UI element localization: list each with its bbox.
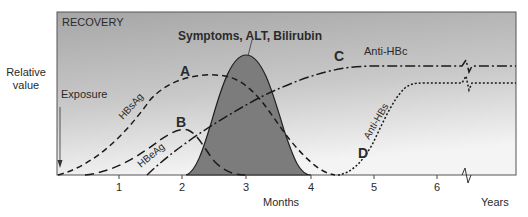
- x-tick-6: 6: [434, 181, 440, 193]
- point-label-d: D: [358, 145, 368, 161]
- chart-title: Symptoms, ALT, Bilirubin: [178, 29, 322, 43]
- x-tick-2: 2: [179, 181, 185, 193]
- anti-hbc-label: Anti-HBc: [364, 45, 408, 57]
- x-tick-4: 4: [308, 181, 314, 193]
- ylabel-line2: value: [13, 79, 39, 91]
- point-label-a: A: [180, 63, 190, 79]
- x-tick-1: 1: [116, 181, 122, 193]
- chart-svg: RECOVERY Symptoms, ALT, Bilirubin Relati…: [0, 0, 528, 217]
- ylabel-line1: Relative: [6, 66, 46, 78]
- point-label-b: B: [176, 114, 186, 130]
- xlabel-months: Months: [263, 196, 300, 208]
- x-tick-5: 5: [371, 181, 377, 193]
- point-label-c: C: [334, 48, 344, 64]
- x-tick-3: 3: [243, 181, 249, 193]
- hepatitis-b-recovery-chart: RECOVERY Symptoms, ALT, Bilirubin Relati…: [0, 0, 528, 217]
- recovery-label: RECOVERY: [62, 16, 124, 28]
- exposure-label: Exposure: [61, 88, 107, 100]
- xlabel-years: Years: [481, 196, 509, 208]
